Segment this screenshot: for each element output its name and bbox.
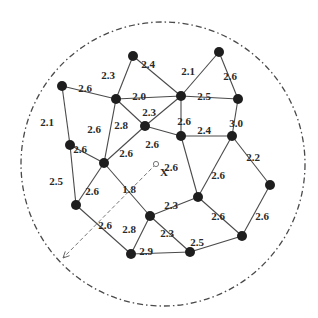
edge-weight-label: 2.3 [142, 106, 156, 118]
edge-weight-label: 2.6 [211, 169, 225, 181]
edge [145, 126, 181, 136]
edge-weight-label: 2.6 [145, 138, 159, 150]
graph-node [126, 249, 136, 259]
edge-weight-label: 2.1 [181, 65, 195, 77]
graph-node [176, 91, 186, 101]
graph-node [57, 81, 67, 91]
graph-node [233, 94, 243, 104]
edge-weight-label: 2.5 [49, 175, 63, 187]
graph-node [176, 131, 186, 141]
edge-weight-label: 2.3 [164, 199, 178, 211]
edge-weight-label: 2.6 [87, 123, 101, 135]
edge-weight-label: 2.6 [177, 115, 191, 127]
edge-weight-label: 2.6 [223, 70, 237, 82]
edge-weight-label: 2.5 [197, 90, 211, 102]
edge-weight-label: 2.8 [122, 223, 136, 235]
edge-weight-label: 2.6 [85, 185, 99, 197]
edge-weight-label: 2.5 [190, 236, 204, 248]
graph-node [128, 51, 138, 61]
edge [116, 56, 133, 99]
edge-weight-label: 2.9 [139, 245, 153, 257]
edge-weight-label: 2.8 [114, 119, 128, 131]
edge-weight-label: 2.4 [141, 58, 155, 70]
graph-node [193, 192, 203, 202]
edge-weight-label: 2.3 [160, 227, 174, 239]
edge-weight-labels: 2.32.42.12.62.62.02.52.12.82.32.62.63.02… [40, 58, 269, 257]
edge [116, 96, 181, 99]
edge-weight-label: 2.6 [211, 210, 225, 222]
edge-weight-label: 2.6 [73, 143, 87, 155]
edge-weight-label: 2.0 [132, 90, 146, 102]
graph-node [140, 121, 150, 131]
edge-weight-label: 2.6 [119, 147, 133, 159]
x-label: X [160, 166, 168, 178]
boundary-circle [21, 22, 305, 306]
edge-weight-label: 2.1 [40, 116, 54, 128]
edge-weight-label: 2.2 [246, 151, 260, 163]
edge-weight-label: 2.4 [197, 124, 211, 136]
edge-weight-label: 2.6 [255, 210, 269, 222]
graph-node [111, 94, 121, 104]
graph-node [237, 231, 247, 241]
graph-node [99, 158, 109, 168]
graph-node [227, 131, 237, 141]
edge [198, 136, 232, 197]
edge-weight-label: 2.3 [101, 69, 115, 81]
graph-node [185, 247, 195, 257]
edge-weight-label: 1.8 [122, 183, 136, 195]
graph-node [265, 180, 275, 190]
edge [62, 86, 70, 145]
edge-layer [62, 52, 270, 254]
graph-node [145, 211, 155, 221]
edge [181, 136, 198, 197]
edge-weight-label: 2.6 [98, 219, 112, 231]
edge-weight-label: 2.6 [78, 82, 92, 94]
network-diagram: 2.32.42.12.62.62.02.52.12.82.32.62.63.02… [0, 0, 318, 318]
edge-weight-label: 3.0 [229, 117, 243, 129]
target-point-icon [153, 161, 158, 166]
graph-node [71, 200, 81, 210]
graph-node [214, 47, 224, 57]
